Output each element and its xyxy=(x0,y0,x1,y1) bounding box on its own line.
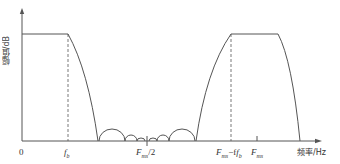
image-band-response-curve xyxy=(196,34,300,141)
x-axis-label: 频率/Hz xyxy=(297,146,326,157)
fms-minus-fb-label: Fms−ffb xyxy=(216,147,242,159)
origin-label: 0 xyxy=(19,147,24,157)
fms-label: Fms xyxy=(251,147,263,159)
fms-half-label: Fms/2 xyxy=(136,147,155,159)
fb-label: fb xyxy=(64,147,70,159)
x-axis-arrow-icon xyxy=(315,139,322,143)
frequency-response-diagram xyxy=(0,0,340,164)
y-axis-label: 幅值/dB xyxy=(1,36,13,65)
y-axis-arrow-icon xyxy=(20,8,24,14)
baseband-response-curve xyxy=(22,34,98,141)
